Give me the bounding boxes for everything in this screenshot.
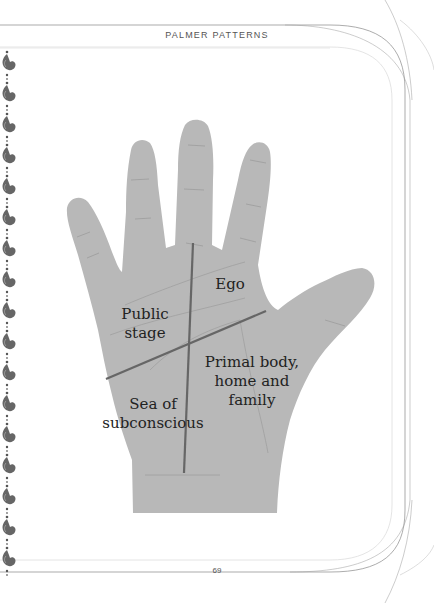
region-label-sea-of-subconscious: Sea of subconscious <box>98 395 208 433</box>
sea-label-line1: Sea of <box>98 395 208 414</box>
region-label-primal-body: Primal body, home and family <box>197 353 307 410</box>
primal-label-line1: Primal body, <box>197 353 307 372</box>
region-label-public-stage: Public stage <box>110 305 180 343</box>
sea-label-line2: subconscious <box>98 414 208 433</box>
public-label-line2: stage <box>110 324 180 343</box>
ego-label: Ego <box>200 275 260 294</box>
page-number: 69 <box>0 566 434 575</box>
hand-diagram <box>0 0 434 603</box>
public-label-line1: Public <box>110 305 180 324</box>
primal-label-line2: home and <box>197 372 307 391</box>
primal-label-line3: family <box>197 391 307 410</box>
region-label-ego: Ego <box>200 275 260 294</box>
book-page: PALMER PATTERNS <box>0 0 434 603</box>
